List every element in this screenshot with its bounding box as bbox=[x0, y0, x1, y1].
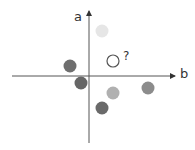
scatter-diagram bbox=[0, 0, 195, 150]
axis-label-b: b bbox=[180, 67, 188, 80]
data-point bbox=[64, 60, 77, 73]
axis-label-a: a bbox=[74, 10, 82, 23]
query-point bbox=[107, 55, 119, 67]
data-point bbox=[107, 87, 120, 100]
query-label: ? bbox=[123, 50, 129, 62]
data-point bbox=[96, 102, 109, 115]
data-point bbox=[75, 77, 88, 90]
data-point bbox=[96, 25, 109, 38]
data-point bbox=[142, 82, 155, 95]
